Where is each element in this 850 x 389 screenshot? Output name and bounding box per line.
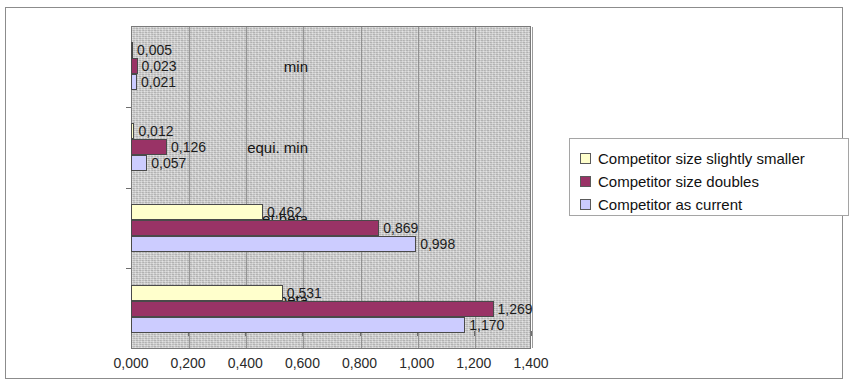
y-axis-tick [126,188,131,189]
x-axis-label: 0,200 [171,355,206,371]
bar-value-label: 0,012 [138,124,173,138]
chart-legend: Competitor size slightly smaller Competi… [569,138,849,216]
bar[interactable] [131,42,133,58]
x-axis-tick [531,331,532,336]
bar[interactable] [131,58,138,74]
legend-swatch-competitor-as-current [580,199,591,210]
category-label: min [108,57,308,76]
bar[interactable] [131,285,283,301]
bar-value-label: 0,005 [137,43,172,57]
bar-value-label: 0,531 [287,286,322,300]
legend-item-0[interactable]: Competitor size slightly smaller [580,148,848,169]
y-axis-tick [126,107,131,108]
x-axis-label: 0,600 [285,355,320,371]
chart-frame: Competitor size slightly smaller Competi… [5,7,843,379]
legend-label-2: Competitor as current [598,196,742,213]
bar-value-label: 0,998 [420,237,455,251]
bar-value-label: 0,023 [142,59,177,73]
x-axis-label: 1,000 [399,355,434,371]
legend-item-2[interactable]: Competitor as current [580,194,848,215]
bar-value-label: 0,869 [383,221,418,235]
legend-swatch-competitor-size-slightly-smaller [580,153,591,164]
y-axis-tick [126,268,131,269]
bar-value-label: 0,126 [171,140,206,154]
x-axis-label: 1,400 [513,355,548,371]
legend-label-1: Competitor size doubles [598,173,759,190]
bar-value-label: 0,057 [151,156,186,170]
bar[interactable] [131,236,416,252]
bar[interactable] [131,301,494,317]
x-axis-label: 0,400 [228,355,263,371]
bar[interactable] [131,123,134,139]
bar[interactable] [131,155,147,171]
bar-value-label: 0,462 [267,205,302,219]
legend-label-0: Competitor size slightly smaller [598,150,805,167]
bar[interactable] [131,74,137,90]
legend-item-1[interactable]: Competitor size doubles [580,171,848,192]
bar[interactable] [131,220,379,236]
gridline [532,27,533,348]
bar[interactable] [131,139,167,155]
bar-value-label: 0,021 [141,75,176,89]
x-axis-label: 1,200 [456,355,491,371]
x-axis-label: 0,000 [113,355,148,371]
bar-value-label: 1,269 [498,302,533,316]
bar[interactable] [131,204,263,220]
x-axis-label: 0,800 [342,355,377,371]
bar-value-label: 1,170 [469,318,504,332]
legend-swatch-competitor-size-doubles [580,176,591,187]
bar[interactable] [131,317,465,333]
